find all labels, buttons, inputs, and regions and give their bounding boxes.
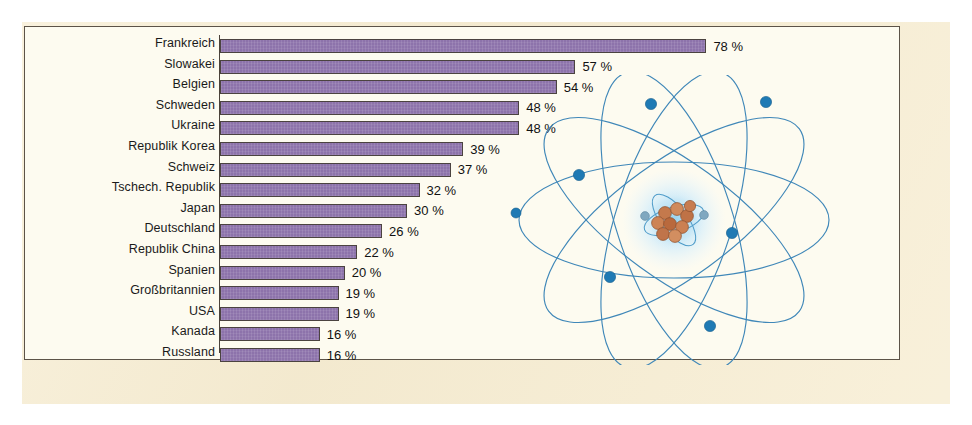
category-label: Schweiz — [0, 160, 215, 174]
bar-value-label: 19 % — [346, 286, 376, 301]
bar-row: Frankreich78 % — [25, 36, 899, 56]
bar-row: Slowakei57 % — [25, 57, 899, 77]
bar — [220, 39, 706, 53]
bar-value-label: 57 % — [582, 59, 612, 74]
electron-dot — [760, 96, 771, 107]
bar — [220, 163, 451, 177]
bar-and-value: 26 % — [220, 224, 419, 238]
electron-dot — [573, 169, 584, 180]
atom-diagram — [459, 75, 889, 365]
bar — [220, 327, 320, 341]
bar — [220, 348, 320, 362]
figure-root: Frankreich78 %Slowakei57 %Belgien54 %Sch… — [0, 0, 972, 425]
category-label: USA — [0, 304, 215, 318]
bar-value-label: 16 % — [327, 348, 357, 363]
category-label: Russland — [0, 345, 215, 359]
category-label: Japan — [0, 201, 215, 215]
bar — [220, 266, 345, 280]
category-label: Deutschland — [0, 221, 215, 235]
bar-and-value: 20 % — [220, 266, 381, 280]
bar-and-value: 37 % — [220, 163, 487, 177]
bar-value-label: 26 % — [389, 224, 419, 239]
bar-value-label: 78 % — [713, 39, 743, 54]
category-label: Spanien — [0, 263, 215, 277]
electron-dot — [726, 227, 737, 238]
chart-panel: Frankreich78 %Slowakei57 %Belgien54 %Sch… — [24, 26, 900, 360]
bar — [220, 245, 357, 259]
category-label: Frankreich — [0, 36, 215, 50]
bar-value-label: 32 % — [427, 183, 457, 198]
category-label: Slowakei — [0, 57, 215, 71]
bar — [220, 142, 463, 156]
category-label: Kanada — [0, 324, 215, 338]
inner-electron-dot — [700, 211, 709, 220]
category-label: Schweden — [0, 98, 215, 112]
bar-and-value: 16 % — [220, 327, 356, 341]
electron-dot — [645, 98, 656, 109]
bar — [220, 307, 339, 321]
bar — [220, 286, 339, 300]
bar-and-value: 32 % — [220, 183, 456, 197]
bar-value-label: 19 % — [346, 306, 376, 321]
electron-dot — [604, 271, 615, 282]
bar — [220, 60, 575, 74]
electron-dot — [511, 208, 521, 218]
bar-value-label: 20 % — [352, 265, 382, 280]
bar — [220, 224, 382, 238]
bar-and-value: 39 % — [220, 142, 500, 156]
electron-dot — [704, 320, 715, 331]
category-label: Ukraine — [0, 118, 215, 132]
category-label: Republik China — [0, 242, 215, 256]
category-label: Belgien — [0, 77, 215, 91]
bar-and-value: 16 % — [220, 348, 356, 362]
bar-and-value: 19 % — [220, 286, 375, 300]
bar-value-label: 22 % — [364, 245, 394, 260]
bar-value-label: 16 % — [327, 327, 357, 342]
bar-and-value: 30 % — [220, 204, 444, 218]
inner-electron-dot — [641, 212, 650, 221]
bar — [220, 204, 407, 218]
category-label: Großbritannien — [0, 283, 215, 297]
bar-and-value: 78 % — [220, 39, 743, 53]
bar-and-value: 19 % — [220, 307, 375, 321]
bar-and-value: 22 % — [220, 245, 394, 259]
category-label: Republik Korea — [0, 139, 215, 153]
bar-value-label: 30 % — [414, 203, 444, 218]
bar — [220, 183, 420, 197]
bar-and-value: 57 % — [220, 60, 612, 74]
category-label: Tschech. Republik — [0, 180, 215, 194]
